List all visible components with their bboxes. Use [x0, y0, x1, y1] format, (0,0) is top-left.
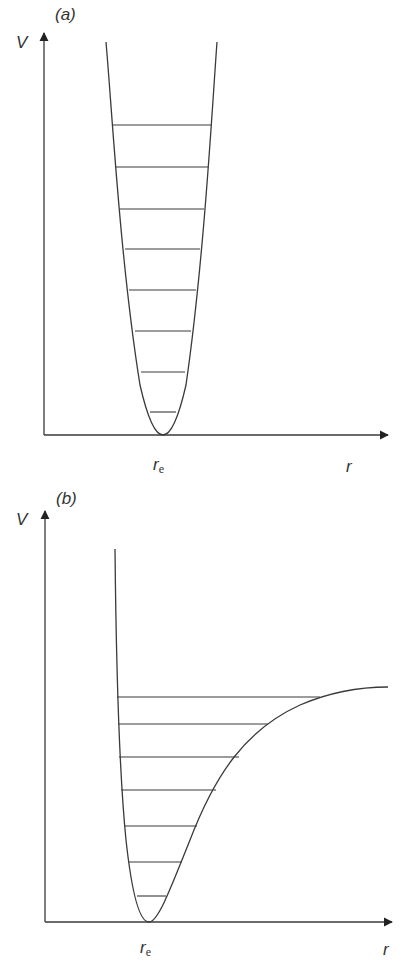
- panel-a-energy-levels: [113, 125, 211, 412]
- panel-b-energy-levels: [117, 697, 320, 896]
- panel-b-morse-curve: [115, 549, 388, 922]
- panel-b-x-axis-label: r: [383, 941, 389, 958]
- panel-a-re-label: re: [153, 456, 164, 475]
- panel-a-y-axis-label: V: [16, 34, 27, 51]
- diagram-canvas: [0, 0, 410, 976]
- panel-b-label: (b): [56, 490, 77, 507]
- panel-b-y-axis-label: V: [16, 511, 27, 528]
- panel-a-harmonic-curve: [106, 42, 217, 435]
- panel-a-label: (a): [55, 6, 76, 23]
- re-subscript: e: [146, 945, 151, 959]
- re-subscript: e: [159, 462, 164, 476]
- panel-a-x-axis-label: r: [346, 458, 352, 475]
- panel-b: [45, 511, 392, 922]
- panel-a: [44, 33, 388, 435]
- panel-b-re-label: re: [140, 939, 151, 958]
